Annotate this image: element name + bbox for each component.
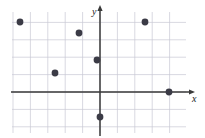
- x-axis-label: x: [192, 94, 196, 104]
- data-point: [142, 19, 149, 26]
- data-point: [52, 70, 59, 77]
- y-axis-arrowhead: [97, 5, 102, 11]
- data-point: [166, 89, 173, 96]
- data-point: [97, 114, 104, 121]
- data-point: [94, 57, 101, 64]
- coordinate-plane-svg: [0, 0, 205, 138]
- data-points: [17, 19, 173, 121]
- y-axis-label: y: [92, 7, 96, 17]
- scatter-plot-figure: y x: [0, 0, 205, 138]
- data-point: [76, 30, 83, 37]
- data-point: [17, 19, 24, 26]
